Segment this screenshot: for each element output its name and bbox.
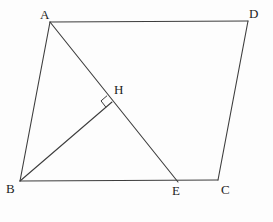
vertex-label-b: B: [6, 182, 15, 195]
vertex-label-c: C: [221, 183, 230, 196]
segment-ab: [20, 22, 50, 181]
vertex-label-d: D: [249, 7, 258, 20]
geometry-canvas: [0, 0, 273, 222]
segment-bc: [20, 180, 218, 181]
segment-dc: [218, 21, 248, 180]
segment-ae: [50, 22, 178, 182]
right-angle-icon: [101, 96, 107, 108]
segments-group: [20, 21, 248, 182]
geometry-figure: A B C D E H: [0, 0, 273, 222]
vertex-label-a: A: [40, 8, 49, 21]
segment-bh: [20, 102, 112, 181]
vertex-label-h: H: [114, 83, 123, 96]
segment-ad: [50, 21, 248, 22]
vertex-label-e: E: [172, 184, 180, 197]
markers-group: [101, 96, 107, 108]
